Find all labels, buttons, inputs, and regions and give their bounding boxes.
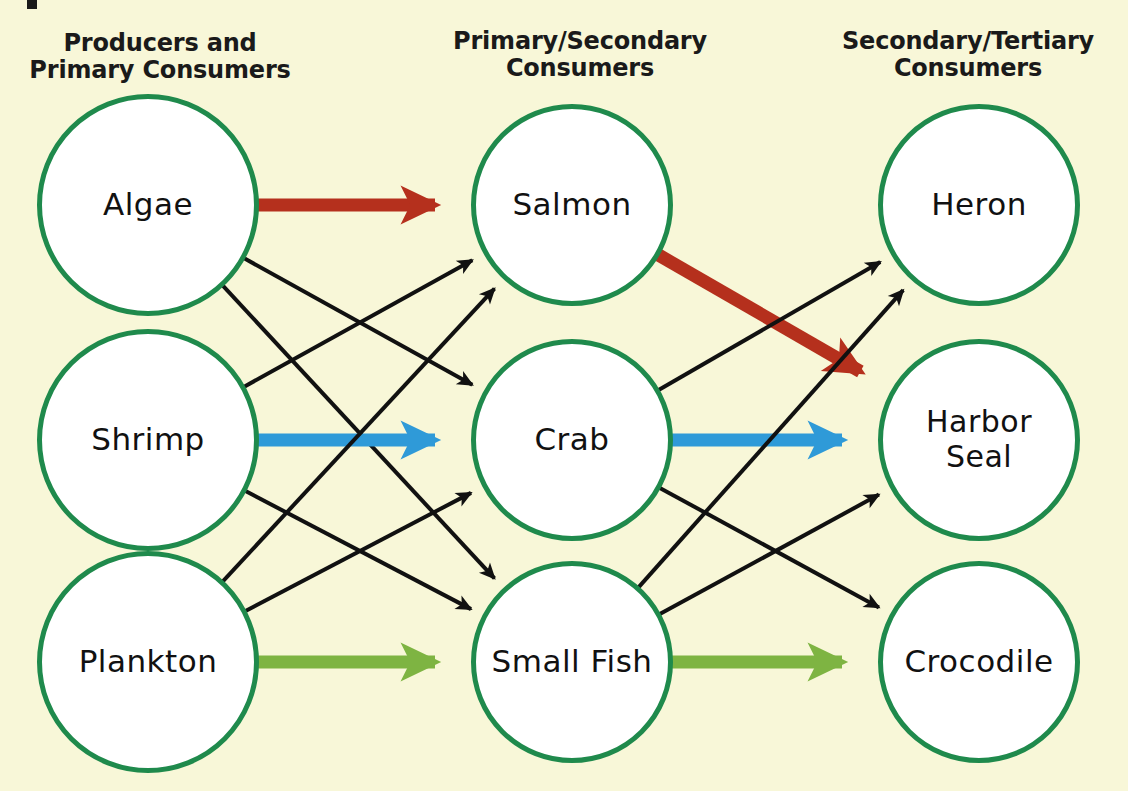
node-label-small-fish: Small Fish	[486, 644, 659, 680]
node-layer: AlgaeShrimpPlanktonSalmonCrabSmall FishH…	[0, 0, 1128, 791]
node-label-harbor-seal: Harbor Seal	[920, 405, 1038, 475]
node-heron[interactable]: Heron	[878, 104, 1080, 306]
node-label-crocodile: Crocodile	[898, 644, 1059, 680]
node-crocodile[interactable]: Crocodile	[878, 561, 1080, 763]
node-salmon[interactable]: Salmon	[471, 104, 673, 306]
node-label-heron: Heron	[925, 187, 1033, 223]
food-web-diagram: Producers and Primary Consumers Primary/…	[0, 0, 1128, 791]
node-label-salmon: Salmon	[506, 187, 637, 223]
node-label-algae: Algae	[97, 187, 199, 223]
node-shrimp[interactable]: Shrimp	[37, 329, 259, 551]
node-algae[interactable]: Algae	[37, 94, 259, 316]
node-crab[interactable]: Crab	[471, 339, 673, 541]
node-label-shrimp: Shrimp	[85, 422, 211, 458]
node-label-plankton: Plankton	[73, 644, 224, 680]
node-small-fish[interactable]: Small Fish	[471, 561, 673, 763]
node-harbor-seal[interactable]: Harbor Seal	[878, 339, 1080, 541]
node-label-crab: Crab	[528, 422, 615, 458]
node-plankton[interactable]: Plankton	[37, 551, 259, 773]
